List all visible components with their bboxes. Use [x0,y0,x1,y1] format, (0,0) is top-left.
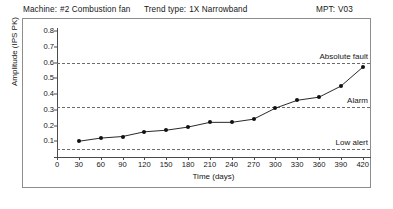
x-tick-label: 120 [138,160,151,169]
mpt-field: MPT:V03 [316,4,353,15]
trend-type-label: Trend type: [144,5,186,14]
x-tick-label: 150 [160,160,173,169]
data-point [252,117,256,121]
chart-header: Machine:#2 Combustion fan Trend type:1X … [0,3,393,17]
x-tick-mark [297,157,298,160]
trend-chart-screen: Machine:#2 Combustion fan Trend type:1X … [0,0,393,209]
x-tick-label: 420 [356,160,369,169]
data-point [339,84,343,88]
x-tick-mark [363,157,364,160]
x-axis-title: Time (days) [57,172,370,181]
y-tick-label: 0.8 [28,27,54,35]
y-axis-title: Amplitude (IPS PK) [10,0,19,112]
x-tick-label: 30 [75,160,83,169]
data-point [99,136,103,140]
x-tick-mark [254,157,255,160]
x-tick-label: 300 [269,160,282,169]
x-tick-label: 270 [247,160,260,169]
trend-type-value: 1X Narrowband [189,5,247,14]
x-tick-label: 0 [55,160,59,169]
threshold-line [57,63,370,64]
y-tick-label: 0.6 [28,59,54,67]
y-tick-mark [54,78,57,79]
x-tick-label: 90 [118,160,126,169]
x-tick-mark [341,157,342,160]
threshold-label: Absolute fault [250,52,368,62]
x-tick-mark [123,157,124,160]
threshold-label: Alarm [250,96,368,106]
data-point [121,135,125,139]
x-tick-mark [232,157,233,160]
mpt-label: MPT: [316,5,335,14]
x-tick-label: 240 [225,160,238,169]
x-tick-label: 180 [182,160,195,169]
y-tick-mark [54,46,57,47]
x-tick-mark [319,157,320,160]
y-tick-label: 0.1 [28,137,54,145]
x-tick-label: 210 [204,160,217,169]
y-tick-mark [54,125,57,126]
threshold-label: Low alert [250,138,368,148]
y-axis-line [57,28,58,159]
machine-field: Machine:#2 Combustion fan [23,4,130,15]
x-tick-label: 60 [96,160,104,169]
machine-value: #2 Combustion fan [60,5,130,14]
x-tick-mark [144,157,145,160]
y-tick-mark [54,141,57,142]
y-tick-label: 0.2 [28,122,54,130]
x-tick-mark [275,157,276,160]
machine-label: Machine: [23,5,57,14]
y-tick-mark [54,94,57,95]
x-tick-label: 390 [335,160,348,169]
x-tick-mark [57,157,58,160]
x-tick-mark [210,157,211,160]
trend-type-field: Trend type:1X Narrowband [144,4,247,15]
x-tick-mark [188,157,189,160]
y-tick-label: 0.4 [28,90,54,98]
y-tick-label: 0.7 [28,43,54,51]
x-tick-label: 360 [313,160,326,169]
x-tick-label: 330 [291,160,304,169]
y-tick-label: 0.3 [28,106,54,114]
x-tick-mark [101,157,102,160]
y-tick-mark [54,109,57,110]
threshold-line [57,149,370,150]
x-tick-mark [166,157,167,160]
data-point [361,65,365,69]
y-tick-label: 0.5 [28,74,54,82]
threshold-line [57,107,370,108]
x-tick-mark [79,157,80,160]
y-tick-mark [54,31,57,32]
mpt-value: V03 [338,5,353,14]
